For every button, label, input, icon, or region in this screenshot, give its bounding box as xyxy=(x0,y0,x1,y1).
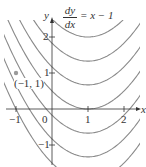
x-tick-label-neg1: −1 xyxy=(9,114,21,125)
initial-point xyxy=(14,71,18,75)
x-tick-label-2: 2 xyxy=(121,114,127,125)
x-tick-label-0: 0 xyxy=(42,114,48,125)
y-tick-label-1: 1 xyxy=(44,67,50,78)
y-tick-label-neg1: −1 xyxy=(38,139,50,150)
equation-numerator: dy xyxy=(65,5,75,16)
y-axis-label: y xyxy=(44,10,49,21)
equation-denominator: dx xyxy=(65,19,75,30)
y-tick-label-2: 2 xyxy=(43,31,49,42)
point-label: (−1, 1) xyxy=(14,78,44,89)
x-axis-label: x xyxy=(141,104,146,115)
x-tick-label-1: 1 xyxy=(85,114,91,125)
equation-rhs: = x − 1 xyxy=(80,10,113,21)
equation-fraction: dy dx xyxy=(63,5,77,30)
